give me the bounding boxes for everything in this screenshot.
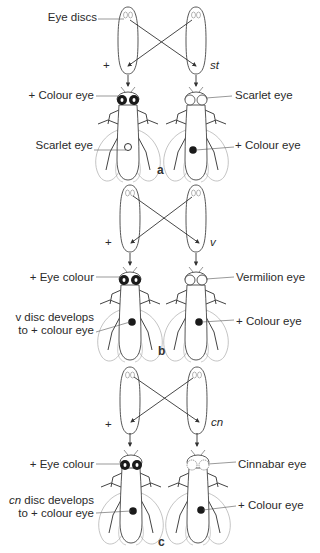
left-fly-implant-label-b-line2: to + colour eye [0, 324, 94, 337]
left-fly-head-label-b: + Eye colour [0, 271, 94, 284]
left-fly-implant-label-c-line1: cn disc develops [0, 494, 94, 507]
left-fly-implant-label-a: Scarlet eye [0, 139, 93, 152]
donor-right-genotype-b: v [210, 236, 216, 249]
right-fly-head-label-a: Scarlet eye [235, 89, 293, 102]
panel-label-a: a [157, 163, 164, 177]
donor-left-genotype-c: + [105, 418, 112, 431]
right-fly-implant-label-a: + Colour eye [235, 139, 301, 152]
panel-label-c: c [158, 535, 165, 549]
panel-b [96, 185, 234, 362]
panel-label-b: b [158, 344, 165, 358]
right-fly-implant-label-c: + Colour eye [238, 499, 304, 512]
panel-c [96, 367, 236, 545]
eye-discs-label: Eye discs [20, 11, 97, 24]
panel-a [94, 7, 234, 182]
right-fly-head-label-b: Vermilion eye [236, 271, 305, 284]
right-fly-head-label-c: Cinnabar eye [238, 458, 306, 471]
left-fly-implant-label-b-line1: v disc develops [0, 311, 94, 324]
donor-left-genotype-b: + [105, 236, 112, 249]
left-fly-implant-label-c-line2: to + colour eye [0, 507, 94, 520]
implant-text: disc develops [21, 494, 94, 506]
right-fly-implant-label-b: + Colour eye [236, 315, 302, 328]
donor-right-genotype-c: cn [211, 416, 223, 429]
left-fly-head-label-c: + Eye colour [0, 458, 94, 471]
donor-right-genotype-a: st [210, 59, 219, 72]
donor-left-genotype-a: + [103, 59, 110, 72]
left-fly-head-label-a: + Colour eye [0, 89, 94, 102]
cn-italic: cn [9, 494, 21, 506]
